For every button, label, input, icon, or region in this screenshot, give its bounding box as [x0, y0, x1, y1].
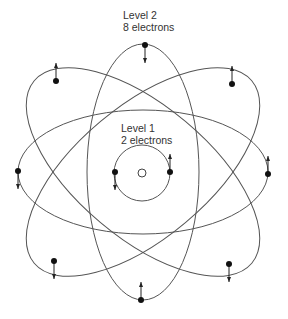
electron-dot	[226, 261, 232, 267]
level2-label: Level 2 8 electrons	[123, 9, 174, 33]
electron-dot	[112, 169, 118, 175]
arrowhead-icon	[113, 185, 117, 190]
arrowhead-icon	[168, 154, 172, 159]
arrowhead-icon	[266, 156, 270, 161]
arrowhead-icon	[139, 282, 143, 287]
electron	[51, 258, 57, 279]
arrowhead-icon	[52, 274, 56, 279]
arrowhead-icon	[54, 63, 58, 68]
electron-dot	[53, 78, 59, 84]
level2-title: Level 2	[123, 9, 174, 21]
nucleus	[138, 169, 146, 177]
electron	[265, 156, 271, 177]
electron	[53, 63, 59, 84]
level1-title: Level 1	[121, 122, 172, 134]
electron-dot	[265, 171, 271, 177]
electron-dot	[138, 297, 144, 303]
arrowhead-icon	[16, 184, 20, 189]
level2-count: 8 electrons	[123, 21, 174, 33]
arrowhead-icon	[227, 277, 231, 282]
level1-label: Level 1 2 electrons	[121, 122, 172, 146]
electron	[15, 168, 21, 189]
electron-dot	[142, 42, 148, 48]
electron	[226, 261, 232, 282]
electron	[167, 154, 173, 175]
electron-dot	[51, 258, 57, 264]
electron	[142, 42, 148, 63]
electron-dot	[15, 168, 21, 174]
electron-dot	[167, 169, 173, 175]
level1-count: 2 electrons	[121, 134, 172, 146]
arrowhead-icon	[143, 58, 147, 63]
electron	[138, 282, 144, 303]
atom-diagram	[0, 0, 288, 319]
electron-dot	[229, 81, 235, 87]
